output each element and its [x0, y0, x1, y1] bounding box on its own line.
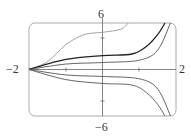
x-max-label: 2 — [179, 63, 185, 75]
chart-canvas — [0, 0, 191, 139]
x-min-label: −2 — [6, 63, 19, 75]
curve-4 — [29, 70, 170, 117]
curve-3 — [29, 23, 170, 70]
y-max-label: 6 — [98, 8, 104, 20]
y-min-label: −6 — [95, 121, 108, 133]
